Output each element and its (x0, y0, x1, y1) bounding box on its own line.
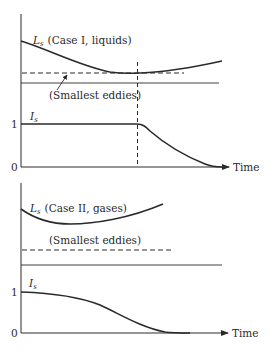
eddies-label-case-2: (Smallest eddies) (49, 234, 141, 246)
is-label-case-1: Is (29, 110, 38, 124)
mixing-diagram: Ls(Case I, liquids) (Smallest eddies) Is… (0, 0, 271, 354)
is-curve-case-2 (21, 292, 190, 333)
ls-label-case-2: Ls(Case II, gases) (29, 202, 127, 216)
time-label-case-2: Time (232, 327, 259, 339)
ls-label-case-1: Ls(Case I, liquids) (32, 34, 132, 48)
panel-case-1: Ls(Case I, liquids) (Smallest eddies) Is… (11, 14, 260, 173)
tick-zero-case-2: 0 (11, 327, 18, 339)
time-label-case-1: Time (233, 161, 260, 173)
panel-case-2: Ls(Case II, gases) (Smallest eddies) Is … (11, 183, 259, 339)
tick-one-case-1: 1 (11, 118, 18, 130)
eddies-label-case-1: (Smallest eddies) (49, 89, 141, 101)
is-curve-case-1 (21, 124, 222, 167)
tick-zero-case-1: 0 (11, 161, 18, 173)
tick-one-case-2: 1 (11, 286, 18, 298)
is-label-case-2: Is (28, 277, 37, 291)
eddies-pointer-arrow (57, 75, 67, 90)
